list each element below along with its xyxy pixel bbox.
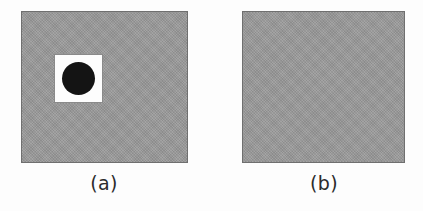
panel-b-caption: (b) xyxy=(274,171,374,195)
black-disc-on-white-square xyxy=(62,62,95,95)
figure-panel-a xyxy=(21,11,188,163)
panel-a-caption: (a) xyxy=(54,171,154,195)
figure-panel-b xyxy=(242,11,405,163)
figure-canvas: (a) (b) xyxy=(0,0,423,211)
